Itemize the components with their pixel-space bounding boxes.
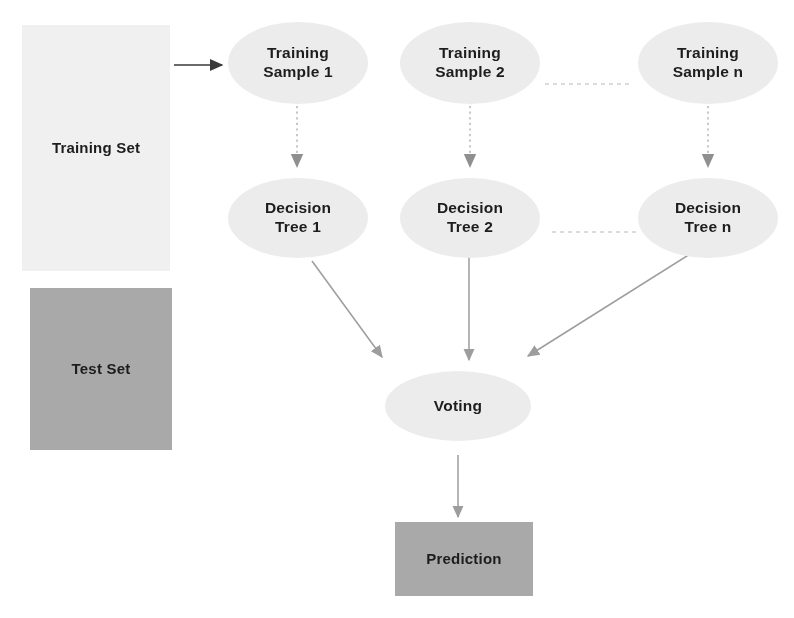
node-decision-tree-n[interactable]: Decision Tree n — [638, 178, 778, 258]
edge-tree-1-to-voting — [312, 261, 382, 357]
node-prediction[interactable]: Prediction — [395, 522, 533, 596]
node-training-set[interactable]: Training Set — [22, 25, 170, 271]
diagram-canvas: Training Set Test Set Training Sample 1 … — [0, 0, 794, 618]
node-voting[interactable]: Voting — [385, 371, 531, 441]
node-training-sample-2[interactable]: Training Sample 2 — [400, 22, 540, 104]
node-training-sample-n[interactable]: Training Sample n — [638, 22, 778, 104]
edge-tree-n-to-voting — [528, 254, 690, 356]
node-decision-tree-2[interactable]: Decision Tree 2 — [400, 178, 540, 258]
node-test-set[interactable]: Test Set — [30, 288, 172, 450]
node-decision-tree-1[interactable]: Decision Tree 1 — [228, 178, 368, 258]
node-training-sample-1[interactable]: Training Sample 1 — [228, 22, 368, 104]
